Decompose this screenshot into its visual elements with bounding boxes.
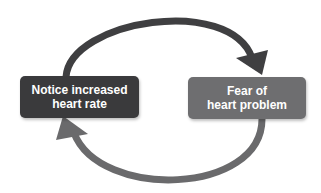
node-label-line2: heart problem [188,98,306,112]
arrowhead-bottom-icon [56,116,88,140]
node-label-line1: Notice increased [20,83,139,97]
node-fear-of-heart-problem: Fear of heart problem [188,77,306,119]
node-notice-increased-heart-rate: Notice increased heart rate [20,76,139,118]
arrow-bottom-arc [74,119,262,180]
node-label-line2: heart rate [20,97,139,111]
node-label-line1: Fear of [188,84,306,98]
arrow-top-arc [66,21,252,77]
